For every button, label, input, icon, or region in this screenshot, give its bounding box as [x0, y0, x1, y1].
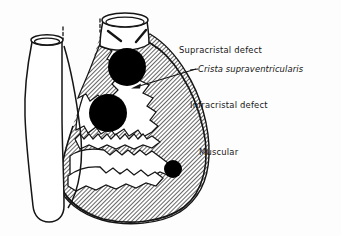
- pulmonary-rim-inner: [106, 17, 144, 27]
- aorta: [25, 35, 64, 222]
- label-infracristal-defect: Infracristal defect: [190, 101, 268, 109]
- diagram-canvas: [0, 0, 341, 236]
- label-supracristal-defect: Supracristal defect: [179, 46, 262, 54]
- orientation-ticks: [63, 19, 100, 39]
- muscular-defect-marker: [164, 160, 182, 178]
- vsd-diagram-figure: Supracristal defect Crista supraventricu…: [0, 0, 341, 236]
- pulmonary-artery: [100, 13, 149, 50]
- infracristal-defect-marker: [89, 94, 127, 132]
- aorta-body: [25, 42, 64, 222]
- label-muscular-defect: Muscular: [199, 148, 238, 156]
- aorta-rim-inner: [35, 38, 60, 45]
- label-crista-supraventricularis: Crista supraventricularis: [198, 65, 303, 73]
- supracristal-defect-marker: [108, 48, 146, 86]
- crista-label-dash: [190, 69, 198, 70]
